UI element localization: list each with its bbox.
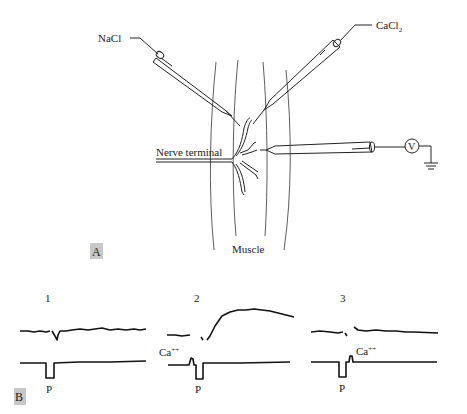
cacl2-label-subscript: 2 bbox=[399, 26, 403, 34]
trace-2-stimulus-label: P bbox=[195, 383, 201, 395]
muscle-fiber-2 bbox=[263, 62, 267, 236]
voltmeter-label: V bbox=[408, 141, 416, 152]
ground-wire bbox=[419, 146, 431, 163]
trace-3-ca-label: Ca++ bbox=[356, 345, 376, 357]
cacl2-pipette-wire bbox=[320, 50, 325, 55]
experiment-figure: NaCl CaCl2 Nerve termi bbox=[0, 0, 467, 414]
panel-a-label: A bbox=[90, 243, 103, 259]
panel-a: NaCl CaCl2 Nerve termi bbox=[90, 19, 438, 259]
nacl-pipette-tip bbox=[225, 110, 240, 126]
trace-1-number: 1 bbox=[45, 292, 51, 304]
muscle-label: Muscle bbox=[232, 243, 265, 255]
trace-group-2: 2 Ca++ P bbox=[159, 292, 294, 395]
cacl2-lead-wire bbox=[341, 25, 372, 40]
recording-pipette bbox=[260, 142, 405, 154]
trace-2-ca-base: Ca bbox=[159, 346, 171, 358]
nacl-label: NaCl bbox=[98, 32, 121, 44]
trace-2-ca-superscript: ++ bbox=[171, 346, 179, 354]
trace-3-stimulus-label: P bbox=[339, 382, 345, 394]
cacl2-pipette-cap bbox=[332, 38, 342, 48]
trace-3-number: 3 bbox=[340, 292, 346, 304]
trace-3-stimulus bbox=[311, 356, 437, 377]
voltmeter: V bbox=[405, 139, 431, 163]
trace-group-1: 1 P bbox=[20, 292, 146, 395]
nacl-pipette-wire bbox=[161, 58, 172, 66]
panel-b-label: B bbox=[14, 388, 26, 405]
panel-a-letter: A bbox=[92, 245, 101, 259]
trace-group-3: 3 Ca++ P bbox=[311, 292, 438, 394]
trace-1-response bbox=[20, 328, 146, 340]
trace-1-stimulus-label: P bbox=[46, 383, 52, 395]
trace-2-number: 2 bbox=[194, 292, 200, 304]
trace-2-ca-label: Ca++ bbox=[159, 346, 179, 358]
muscle-fiber-1 bbox=[233, 60, 238, 236]
nerve-branch-small-2 bbox=[242, 150, 257, 155]
nerve-terminal-label: Nerve terminal bbox=[156, 146, 222, 158]
cacl2-label-base: CaCl bbox=[376, 19, 399, 31]
ground-icon bbox=[424, 163, 438, 169]
panel-b-letter: B bbox=[15, 390, 23, 404]
recording-pipette-wire bbox=[352, 148, 370, 149]
muscle-fibers bbox=[210, 60, 290, 250]
trace-2-stimulus bbox=[168, 358, 290, 379]
trace-1-stimulus bbox=[20, 361, 146, 378]
nacl-pipette-body bbox=[153, 58, 232, 116]
muscle-fiber-outline-right bbox=[284, 70, 290, 250]
cacl2-pipette-tip bbox=[253, 110, 264, 124]
trace-2-response bbox=[167, 309, 294, 340]
trace-3-response bbox=[311, 327, 438, 336]
recording-pipette-body bbox=[266, 142, 372, 154]
trace-3-ca-base: Ca bbox=[356, 345, 368, 357]
panel-b: 1 P 2 Ca++ P 3 Ca++ P B bbox=[14, 292, 438, 405]
nerve-branch-up-inner bbox=[236, 120, 252, 156]
nerve-branch-down-inner bbox=[236, 164, 245, 192]
cacl2-pipette bbox=[253, 25, 372, 124]
nacl-pipette bbox=[130, 38, 240, 126]
nacl-lead-wire bbox=[130, 38, 158, 54]
cacl2-pipette-body bbox=[264, 40, 340, 110]
cacl2-label: CaCl2 bbox=[376, 19, 403, 34]
trace-3-ca-superscript: ++ bbox=[368, 345, 376, 353]
